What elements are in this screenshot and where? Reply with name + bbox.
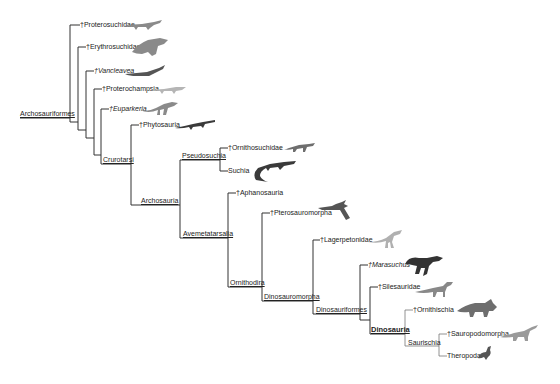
node-label-dinosauria: Dinosauria xyxy=(371,326,410,334)
vancleavea-silhouette-icon xyxy=(125,64,167,78)
leaf-label-ornithosuchidae: †Ornithosuchidae xyxy=(228,144,283,152)
leaf-label-ornithischia: †Ornithischia xyxy=(413,306,454,314)
node-label-ornithodira: Ornithodira xyxy=(230,279,265,287)
node-label-saurischia: Saurischia xyxy=(408,339,441,347)
node-label-avemetatarsalia: Avemetatarsalia xyxy=(183,230,233,238)
silesaurid-silhouette-icon xyxy=(415,280,455,300)
leaf-label-aphanosauria: †Aphanosauria xyxy=(236,189,283,197)
node-label-dinosauriformes: Dinosauriformes xyxy=(316,306,367,314)
ceratopsian-silhouette-icon xyxy=(457,299,497,321)
node-label-pseudosuchia: Pseudosuchia xyxy=(182,152,226,160)
crocodile-silhouette-icon xyxy=(250,158,298,184)
sauropodomorph-silhouette-icon xyxy=(500,325,540,343)
marasuchus-silhouette-icon xyxy=(405,254,445,280)
node-label-crurotarsi: Crurotarsi xyxy=(103,156,134,164)
ornithosuchid-silhouette-icon xyxy=(277,139,317,155)
node-label-archosauria: Archosauria xyxy=(141,197,178,205)
leaf-label-marasuchus: †Marasuchus xyxy=(368,261,410,269)
erythrosuchid-silhouette-icon xyxy=(130,36,170,58)
proterosuchid-silhouette-icon xyxy=(124,18,164,32)
leaf-label-phytosauria: †Phytosauria xyxy=(139,121,180,129)
proterochampsia-silhouette-icon xyxy=(148,84,188,96)
node-label-archosauriformes: Archosauriformes xyxy=(20,110,75,118)
node-label-dinosauromorpha: Dinosauromorpha xyxy=(264,293,320,301)
pterosaur-silhouette-icon xyxy=(318,200,354,224)
leaf-label-lagerpetonidae: †Lagerpetonidae xyxy=(320,236,373,244)
lagerpetonid-silhouette-icon xyxy=(368,228,404,250)
bird-silhouette-icon xyxy=(476,344,494,362)
phytosaur-silhouette-icon xyxy=(175,118,217,132)
leaf-label-suchia: Suchia xyxy=(228,167,249,175)
euparkeria-silhouette-icon xyxy=(140,98,180,118)
